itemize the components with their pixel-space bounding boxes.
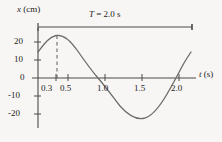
period-annotation: T = 2.0 s bbox=[89, 10, 121, 19]
y-axis-unit: (cm) bbox=[23, 4, 40, 14]
x-tick-label-2-0: 2.0 bbox=[171, 84, 182, 93]
period-value: = 2.0 s bbox=[96, 9, 120, 19]
shm-displacement-graph: x (cm) t (s) T = 2.0 s 20 10 0 -10 -20 0… bbox=[0, 0, 222, 142]
x-axis-variable: t bbox=[199, 69, 202, 79]
x-axis-unit: (s) bbox=[204, 69, 214, 79]
y-tick-label-20: 20 bbox=[14, 37, 23, 46]
x-tick-label-1-5: 1.5 bbox=[134, 84, 145, 93]
displacement-curve bbox=[38, 35, 191, 118]
y-tick-label-minus-20: -20 bbox=[8, 109, 20, 118]
x-tick-label-0-3: 0.3 bbox=[41, 84, 52, 93]
y-tick-label-minus-10: -10 bbox=[8, 91, 20, 100]
y-tick-label-0: 0 bbox=[20, 73, 25, 82]
y-tick-label-10: 10 bbox=[14, 55, 23, 64]
plot-canvas bbox=[0, 0, 222, 142]
x-axis-title: t (s) bbox=[199, 70, 213, 79]
period-symbol: T bbox=[89, 9, 94, 19]
x-tick-label-1-0: 1.0 bbox=[97, 84, 108, 93]
x-tick-label-0-5: 0.5 bbox=[60, 84, 71, 93]
y-axis-title: x (cm) bbox=[17, 5, 40, 14]
y-axis-variable: x bbox=[17, 4, 21, 14]
